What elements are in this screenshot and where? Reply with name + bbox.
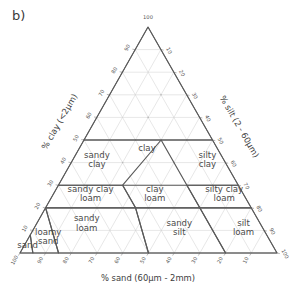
tick-label-silt-100: 100 [280,248,290,260]
tick-label-silt-80: 80 [255,204,263,213]
ternary-diagram-figure: b) 1009080706050403020101020304050607080… [0,0,300,292]
tick-label-sand-10: 10 [241,256,249,265]
class-label-sandy-clay-loam: sandy clayloam [68,184,114,203]
class-label-sandy-clay: sandyclay [84,150,110,169]
tick-label-sand-70: 70 [87,256,95,265]
tick-label-clay-90: 90 [123,43,131,52]
class-label-line: sand [17,240,38,250]
tick-label-silt-10: 10 [165,46,173,55]
class-label-line: loam [144,193,165,203]
class-label-line: clay [88,159,105,169]
tick-label-clay-20: 20 [33,202,41,211]
class-label-line: clay [199,159,216,169]
grid-node [147,117,149,119]
tick-label-sand-60: 60 [113,256,121,265]
class-label-line: loam [214,193,235,203]
class-label-line: sand [38,236,59,246]
tick-label-silt-40: 40 [204,114,212,123]
ternary-diagram-svg: b) 1009080706050403020101020304050607080… [0,0,300,292]
tick-label-sand-100: 100 [9,254,19,266]
axis-title-clay: % clay (<2µm) [39,92,79,151]
tick-label-sand-40: 40 [164,256,172,265]
axis-title-sand: % sand (60µm - 2mm) [101,273,195,283]
tick-label-silt-20: 20 [178,69,186,78]
class-label-line: loam [233,227,254,237]
tick-label-silt-60: 60 [230,159,238,168]
class-label-sandy-loam: sandyloam [74,213,100,232]
tick-label-silt-90: 90 [268,227,276,236]
class-label-sand: sand [17,240,38,250]
tick-label-sand-80: 80 [61,256,69,265]
tick-label-silt-70: 70 [242,182,250,191]
tick-label-sand-30: 30 [190,256,198,265]
class-label-clay: clay [138,143,155,153]
class-label-silty-clay-loam: silty clayloam [205,184,243,203]
grid-node [160,94,162,96]
class-label-silty-clay: siltyclay [199,150,217,169]
class-region-clay [84,27,213,140]
class-label-clay-loam: clayloam [144,184,165,203]
tick-label-clay-30: 30 [46,179,54,188]
class-label-line: silt [173,227,186,237]
tick-label-clay-80: 80 [110,66,118,75]
tick-label-sand-50: 50 [139,256,147,265]
tick-label-clay-100: 100 [143,14,153,20]
class-label-line: clay [138,143,155,153]
class-label-line: loam [80,193,101,203]
class-label-line: loam [76,223,97,233]
tick-label-clay-50: 50 [72,134,80,143]
apex-label: 100 [143,14,153,20]
gridline-sand-30 [110,95,200,253]
tick-label-sand-20: 20 [216,256,224,265]
tick-label-clay-60: 60 [84,111,92,120]
panel-label: b) [12,8,25,23]
class-labels: claysandyclaysiltyclaysandy clayloamclay… [17,143,254,250]
grid-node [122,162,124,164]
class-label-silt-loam: siltloam [233,218,254,237]
tick-label-clay-40: 40 [59,156,67,165]
tick-label-silt-30: 30 [191,91,199,100]
tick-label-sand-90: 90 [36,256,44,265]
tick-label-silt-50: 50 [217,137,225,146]
class-label-sandy-silt: sandysilt [166,218,192,237]
tick-label-clay-10: 10 [20,224,28,233]
axis-title-silt: % silt (2 - 60µm) [218,94,262,160]
tick-label-clay-70: 70 [97,89,105,98]
class-label-loamy-sand: loamysand [35,227,61,246]
